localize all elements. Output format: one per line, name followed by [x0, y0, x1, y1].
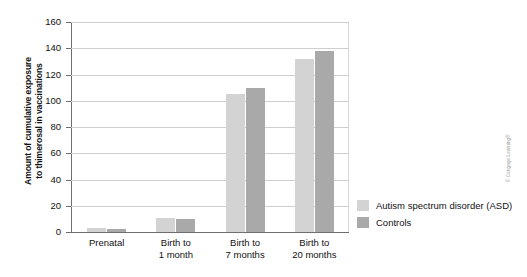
legend-label-controls: Controls [376, 217, 411, 228]
x-axis-tick-label: Birth to 20 months [280, 237, 349, 261]
y-axis-tick [66, 48, 71, 49]
bar [246, 88, 265, 232]
y-axis-tick-label: 120 [33, 70, 61, 80]
bar [176, 219, 195, 232]
bar [295, 59, 314, 232]
legend-item-controls: Controls [357, 215, 512, 230]
chart-figure: Amount of cumulative exposure to thimero… [0, 0, 527, 277]
bar [87, 228, 106, 232]
legend-label-asd: Autism spectrum disorder (ASD) [376, 200, 512, 211]
bars-layer [72, 22, 349, 232]
y-axis-tick [66, 101, 71, 102]
legend-item-asd: Autism spectrum disorder (ASD) [357, 198, 512, 213]
y-axis-tick [66, 127, 71, 128]
y-axis-tick-label: 20 [33, 201, 61, 211]
x-axis-tick-label: Birth to 7 months [211, 237, 280, 261]
x-axis-tick-label: Prenatal [72, 237, 141, 249]
x-axis-tick-label: Birth to 1 month [141, 237, 210, 261]
y-axis-tick [66, 75, 71, 76]
y-axis-tick [66, 232, 71, 233]
copyright-credit: © Cengage Learning® [506, 90, 511, 182]
y-axis-tick [66, 153, 71, 154]
bar [226, 94, 245, 232]
y-axis-tick [66, 206, 71, 207]
bar [315, 51, 334, 232]
y-axis-tick-label: 0 [33, 227, 61, 237]
y-axis-tick-label: 60 [33, 148, 61, 158]
legend-swatch-icon-asd [357, 200, 369, 211]
bar [107, 229, 126, 232]
y-axis-tick-label: 160 [33, 17, 61, 27]
y-axis-tick-label: 140 [33, 43, 61, 53]
y-axis-tick [66, 22, 71, 23]
y-axis-tick-label: 40 [33, 175, 61, 185]
y-axis-tick-label: 80 [33, 122, 61, 132]
y-axis-tick-label: 100 [33, 96, 61, 106]
chart-legend: Autism spectrum disorder (ASD) Controls [357, 198, 512, 232]
bar [156, 218, 175, 232]
legend-swatch-icon-controls [357, 217, 369, 228]
y-axis-tick [66, 180, 71, 181]
